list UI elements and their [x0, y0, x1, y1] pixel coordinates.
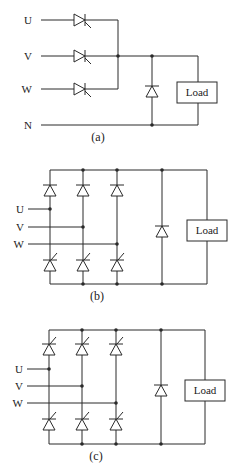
junction-dot: [80, 384, 84, 388]
junction-dot: [47, 367, 51, 371]
input-label-v: V: [15, 380, 23, 392]
junction-dot: [115, 282, 119, 286]
thyristor-icon: [74, 50, 91, 64]
junction-dot: [115, 168, 119, 172]
junction-dot: [48, 207, 52, 211]
junction-dot: [114, 328, 118, 332]
load-label: Load: [186, 86, 209, 98]
circuit-figure: U V W N Load (a): [0, 0, 245, 476]
input-label-v: V: [24, 50, 32, 62]
junction-dot: [115, 242, 119, 246]
input-label-u: U: [15, 363, 23, 375]
input-label-n: N: [24, 119, 32, 131]
diode-icon: [110, 185, 124, 196]
caption-c: (c): [89, 449, 102, 463]
load-label: Load: [194, 384, 217, 396]
diode-icon: [76, 185, 90, 196]
panel-b: U V W Load (b): [14, 168, 227, 303]
junction-dot: [80, 328, 84, 332]
input-label-w: W: [14, 238, 25, 250]
input-label-u: U: [16, 203, 24, 215]
junction-dot: [81, 168, 85, 172]
input-label-v: V: [16, 221, 24, 233]
junction-dot: [80, 442, 84, 446]
junction-dot: [81, 225, 85, 229]
caption-b: (b): [90, 289, 104, 303]
thyristor-icon: [74, 14, 91, 28]
junction-dot: [116, 54, 120, 58]
diode-icon: [43, 185, 57, 196]
input-label-w: W: [13, 397, 24, 409]
freewheel-diode-icon: [154, 385, 168, 396]
input-label-u: U: [24, 14, 32, 26]
freewheel-diode-icon: [155, 226, 169, 237]
panel-a: U V W N Load (a): [22, 14, 217, 144]
freewheel-diode-icon: [145, 86, 159, 97]
panel-c: U V W Load (c): [13, 328, 225, 463]
load-label: Load: [196, 224, 219, 236]
input-label-w: W: [22, 83, 33, 95]
junction-dot: [114, 401, 118, 405]
thyristor-icon: [74, 83, 91, 97]
caption-a: (a): [91, 130, 104, 144]
junction-dot: [114, 442, 118, 446]
junction-dot: [81, 282, 85, 286]
